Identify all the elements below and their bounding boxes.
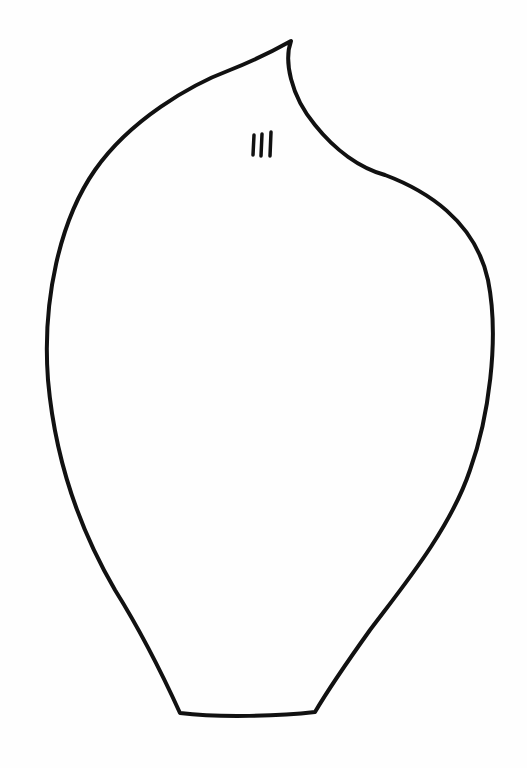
drawing-canvas <box>0 0 527 768</box>
label-marks <box>253 132 271 156</box>
petal-outline-drawing <box>0 0 527 768</box>
